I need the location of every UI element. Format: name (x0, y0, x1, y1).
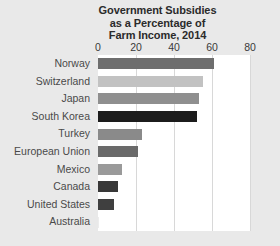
bar-row (98, 178, 250, 196)
chart-title-line-1: Government Subsidies (60, 4, 255, 17)
bar-row (98, 90, 250, 108)
x-axis-tick-labels: 020406080 (0, 41, 280, 54)
plot-area (98, 55, 250, 231)
y-label-japan: Japan (0, 90, 94, 108)
bar-row (98, 108, 250, 126)
x-tick-label-3: 60 (206, 41, 218, 53)
y-label-mexico: Mexico (0, 161, 94, 179)
bar-japan (98, 93, 199, 104)
chart-title-line-3: Farm Income, 2014 (60, 29, 255, 42)
bar-chart: Government Subsidies as a Percentage of … (0, 0, 280, 246)
bar-row (98, 161, 250, 179)
bar-norway (98, 58, 214, 69)
bar-switzerland (98, 76, 203, 87)
x-tick-label-0: 0 (95, 41, 101, 53)
y-label-switzerland: Switzerland (0, 73, 94, 91)
y-label-canada: Canada (0, 178, 94, 196)
bar-european-union (98, 146, 138, 157)
chart-title-line-2: as a Percentage of (60, 17, 255, 30)
y-axis-category-labels: NorwaySwitzerlandJapanSouth KoreaTurkeyE… (0, 55, 94, 231)
bar-row (98, 125, 250, 143)
x-tick-label-4: 80 (244, 41, 256, 53)
bars-layer (98, 55, 250, 231)
bar-mexico (98, 164, 122, 175)
y-label-turkey: Turkey (0, 125, 94, 143)
x-tick-label-1: 20 (130, 41, 142, 53)
x-tick-label-2: 40 (168, 41, 180, 53)
y-label-australia: Australia (0, 213, 94, 231)
bar-australia (98, 217, 99, 228)
bar-canada (98, 181, 118, 192)
y-label-united-states: United States (0, 196, 94, 214)
y-label-european-union: European Union (0, 143, 94, 161)
bar-row (98, 73, 250, 91)
bar-row (98, 55, 250, 73)
y-label-norway: Norway (0, 55, 94, 73)
bar-row (98, 213, 250, 231)
bar-united-states (98, 199, 114, 210)
y-label-south-korea: South Korea (0, 108, 94, 126)
bar-south-korea (98, 111, 197, 122)
chart-title: Government Subsidies as a Percentage of … (60, 4, 255, 42)
bar-turkey (98, 129, 142, 140)
bar-row (98, 143, 250, 161)
gridline-4 (250, 55, 251, 231)
bar-row (98, 196, 250, 214)
